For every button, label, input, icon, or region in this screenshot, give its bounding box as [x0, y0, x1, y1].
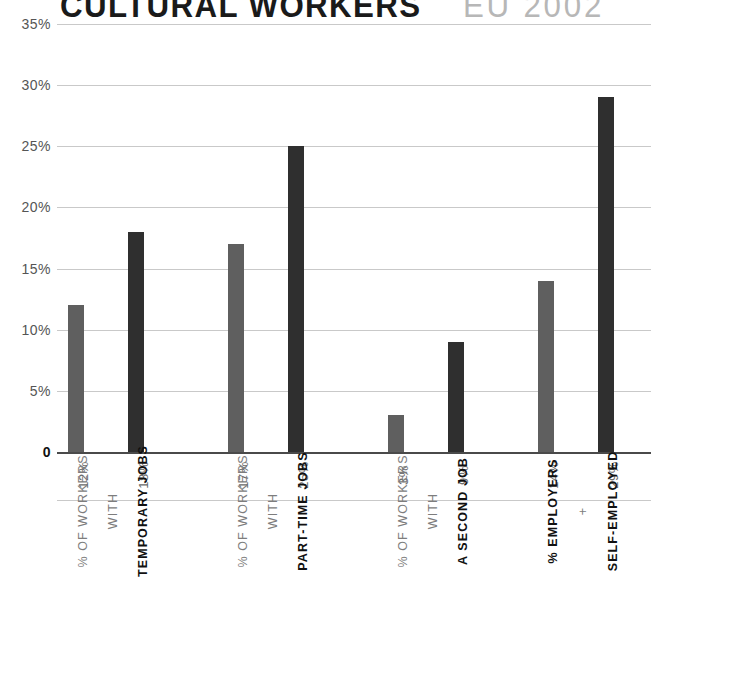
gridline: [57, 330, 651, 331]
bar: [448, 342, 464, 452]
category-label-text: % OF WORKERS: [236, 454, 250, 567]
y-axis-tick-label: 35%: [0, 16, 51, 32]
category-label-text: % OF WORKERS: [396, 454, 410, 567]
page-title: CULTURAL WORKERSEU 2002: [60, 0, 720, 20]
x-axis-labels: 12%18%17%25%3%9%14%29%% OF WORKERSWITHTE…: [57, 455, 651, 665]
category-label-text: % OF WORKERS: [76, 454, 90, 567]
y-axis-tick-label: 5%: [0, 383, 51, 399]
category-label-text: WITH: [426, 493, 440, 529]
category-label-text: PART-TIME JOBS: [296, 451, 310, 570]
y-axis-tick-label: 25%: [0, 138, 51, 154]
category-label-text: % EMPLOYERS: [546, 458, 560, 563]
plot-area: 35%30%25%20%15%10%5%0: [57, 24, 651, 452]
gridline: [57, 391, 651, 392]
bar: [388, 415, 404, 452]
category-label-text: WITH: [106, 493, 120, 529]
bar: [598, 97, 614, 452]
bar: [128, 232, 144, 452]
category-label-text: A SECOND JOB: [456, 457, 470, 565]
y-axis-tick-label: 20%: [0, 199, 51, 215]
title-subtitle-text: EU 2002: [463, 0, 604, 20]
bar: [288, 146, 304, 452]
y-axis-tick-label: 30%: [0, 77, 51, 93]
chart-page: CULTURAL WORKERSEU 2002 35%30%25%20%15%1…: [0, 0, 734, 675]
gridline: [57, 207, 651, 208]
bar: [228, 244, 244, 452]
title-main-text: CULTURAL WORKERS: [60, 0, 422, 20]
category-label-text: +: [576, 507, 590, 515]
bar: [538, 281, 554, 452]
gridline: [57, 146, 651, 147]
gridline: [57, 24, 651, 25]
y-axis-tick-label: 10%: [0, 322, 51, 338]
y-axis-tick-label: 15%: [0, 261, 51, 277]
gridline: [57, 269, 651, 270]
category-label-text: SELF-EMPLOYED: [606, 451, 620, 572]
y-axis-tick-label: 0: [0, 444, 51, 460]
gridline: [57, 85, 651, 86]
bar: [68, 305, 84, 452]
category-label-text: WITH: [266, 493, 280, 529]
category-label-text: TEMPORARY JOBS: [136, 445, 150, 577]
